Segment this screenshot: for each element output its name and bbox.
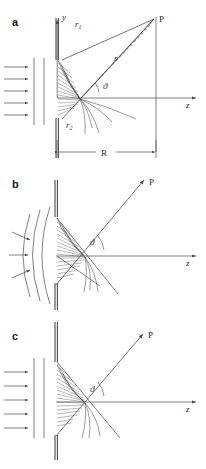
ray-to-P-b [56, 180, 144, 285]
incident-rays-b [9, 232, 30, 278]
incident-rays-a [4, 67, 28, 115]
panel-b: b [0, 160, 206, 310]
label-c-point-P: P [148, 330, 153, 340]
angle-arc-b [98, 236, 104, 250]
aperture-hatching-a [58, 63, 80, 115]
aperture-hatching-c [57, 366, 85, 426]
angle-arc-a [95, 83, 99, 92]
edge-rays-c [57, 362, 120, 438]
incident-rays-c [4, 372, 28, 428]
angle-arc-c [98, 382, 104, 396]
panel-a-drawing: r1 r r2 ϑ y z P R [0, 0, 206, 160]
rays-to-P-a [62, 19, 154, 119]
panel-a: a [0, 0, 206, 160]
aperture-screen-b [55, 180, 57, 310]
label-c-theta: ϑ [90, 384, 95, 394]
label-a-z-axis: z [185, 100, 190, 110]
label-a-y-axis: y [61, 12, 66, 22]
label-a-distance-R: R [101, 148, 107, 158]
aperture-screen-c [55, 322, 57, 460]
label-a-r1: r1 [75, 19, 82, 30]
label-b-z-axis: z [185, 258, 190, 268]
label-a-theta: ϑ [103, 81, 108, 91]
label-c-z-axis: z [185, 404, 190, 414]
label-a-r2: r2 [66, 120, 73, 131]
panel-b-drawing: P z ϑ [0, 160, 206, 310]
label-b-theta: ϑ [90, 237, 95, 247]
incident-wavefronts-b [23, 207, 50, 304]
diffraction-figure: a [0, 0, 206, 469]
label-a-r: r [114, 53, 118, 63]
panel-c-drawing: P z ϑ [0, 310, 206, 469]
incident-wavefronts-a [34, 58, 44, 125]
wavelet-arcs-b [57, 218, 98, 292]
incident-wavefronts-c [34, 358, 44, 438]
label-a-point-P: P [159, 14, 164, 24]
label-b-point-P: P [149, 177, 154, 187]
aperture-hatching-b [57, 222, 85, 278]
panel-c: c [0, 310, 206, 469]
